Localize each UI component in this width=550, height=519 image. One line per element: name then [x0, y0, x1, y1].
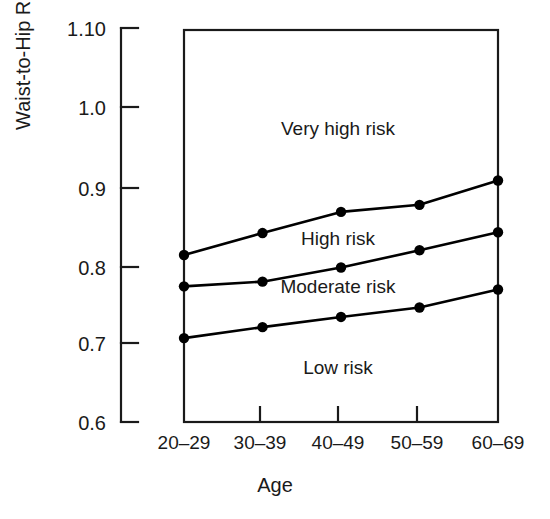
x-axis-title: Age — [0, 474, 550, 497]
zone-label-high-risk: High risk — [218, 228, 458, 250]
data-point — [179, 250, 189, 260]
ytick-label-4: 0.7 — [28, 333, 106, 356]
xtick-label-0: 20–29 — [144, 432, 224, 454]
zone-label-low-risk: Low risk — [218, 357, 458, 379]
data-point — [179, 281, 189, 291]
data-point — [179, 333, 189, 343]
xtick-label-3: 50–59 — [377, 432, 457, 454]
y-axis-title: Waist-to-Hip Ratio — [12, 0, 35, 130]
xtick-label-1: 30–39 — [220, 432, 300, 454]
data-point — [493, 175, 503, 185]
ytick-label-0: 1.10 — [28, 18, 106, 41]
xtick-label-4: 60–69 — [458, 432, 538, 454]
waist-to-hip-ratio-risk-chart: 1.10 1.0 0.9 0.8 0.7 0.6 Waist-to-Hip Ra… — [0, 0, 550, 519]
zone-label-moderate-risk: Moderate risk — [218, 276, 458, 298]
data-point — [336, 262, 346, 272]
data-series-layer — [179, 175, 503, 343]
ytick-label-2: 0.9 — [28, 178, 106, 201]
zone-label-very-high-risk: Very high risk — [218, 118, 458, 140]
data-point — [336, 312, 346, 322]
xtick-label-2: 40–49 — [298, 432, 378, 454]
data-point — [493, 284, 503, 294]
y-axis-spine — [121, 28, 138, 422]
data-point — [414, 200, 424, 210]
ytick-label-5: 0.6 — [28, 412, 106, 435]
data-point — [336, 207, 346, 217]
ytick-label-1: 1.0 — [28, 97, 106, 120]
data-point — [414, 302, 424, 312]
data-point — [493, 227, 503, 237]
x-axis-ticks — [260, 406, 417, 422]
data-point — [257, 322, 267, 332]
ytick-label-3: 0.8 — [28, 257, 106, 280]
